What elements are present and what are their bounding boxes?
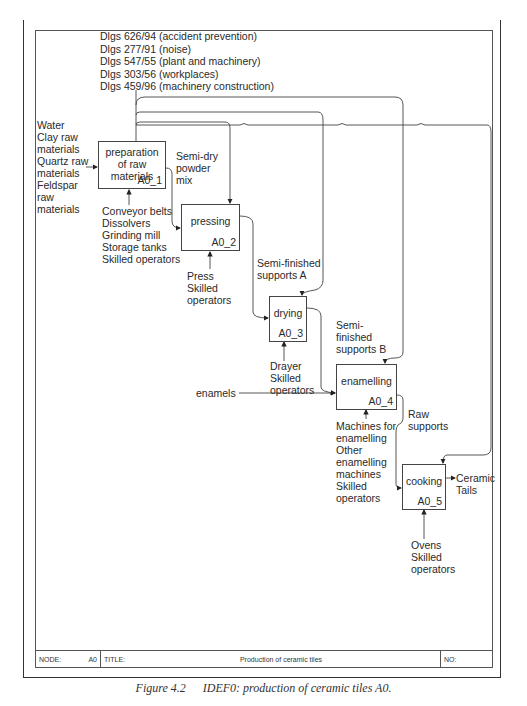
mechanism-a0-3: Drayer Skilled operators: [270, 360, 314, 396]
control-label-2: Dlgs 277/91 (noise): [100, 43, 191, 55]
mechanism-a0-2: Press Skilled operators: [187, 270, 231, 306]
footer-node-cell: NODE: A0: [36, 651, 101, 667]
activity-box-a0-2[interactable]: pressing A0_2: [181, 204, 240, 251]
no-label: NO:: [444, 656, 456, 663]
connector-lines: [0, 0, 527, 706]
input-raw-materials: Water Clay raw materials Quartz raw mate…: [37, 119, 88, 215]
figure-text: IDEF0: production of ceramic tiles A0.: [203, 681, 392, 695]
activity-box-a0-5[interactable]: cooking A0_5: [402, 464, 446, 510]
activity-box-a0-1[interactable]: preparation of raw materials A0_1: [98, 141, 166, 189]
input-enamels: enamels: [196, 387, 236, 399]
activity-code: A0_4: [368, 395, 393, 407]
node-value: A0: [88, 656, 97, 663]
mechanism-a0-1: Conveyor belts Dissolvers Grinding mill …: [102, 205, 180, 265]
activity-code: A0_1: [137, 174, 162, 186]
control-label-3: Dlgs 547/55 (plant and machinery): [100, 55, 261, 67]
activity-name: cooking: [403, 475, 445, 487]
node-label: NODE:: [39, 656, 61, 663]
control-label-5: Dlgs 459/96 (machinery construction): [100, 80, 274, 92]
flow-output-ceramic-tails: Ceramic Tails: [456, 472, 495, 496]
flow-semi-finished-a: Semi-finished supports A: [257, 257, 321, 281]
activity-name: enamelling: [337, 375, 396, 387]
figure-caption: Figure 4.2 IDEF0: production of ceramic …: [0, 681, 527, 696]
title-value: Production of ceramic tiles: [125, 656, 437, 663]
mechanism-a0-5: Ovens Skilled operators: [411, 539, 455, 575]
activity-code: A0_3: [278, 327, 303, 339]
flow-raw-supports: Raw supports: [408, 408, 448, 432]
diagram-footer: NODE: A0 TITLE: Production of ceramic ti…: [35, 650, 493, 668]
title-label: TITLE:: [104, 656, 125, 663]
mechanism-a0-4: Machines for enamelling Other enamelling…: [336, 420, 396, 504]
activity-box-a0-3[interactable]: drying A0_3: [269, 296, 307, 342]
control-label-4: Dlgs 303/56 (workplaces): [100, 68, 218, 80]
activity-code: A0_5: [417, 495, 442, 507]
activity-name: pressing: [182, 215, 239, 227]
footer-title-cell: TITLE: Production of ceramic tiles: [101, 651, 441, 667]
activity-name: drying: [270, 307, 306, 319]
activity-box-a0-4[interactable]: enamelling A0_4: [336, 364, 397, 410]
flow-semi-dry-powder: Semi-dry powder mix: [176, 150, 218, 186]
flow-semi-finished-b: Semi- finished supports B: [336, 319, 386, 355]
footer-no-cell: NO:: [441, 651, 492, 667]
figure-number: Figure 4.2: [136, 681, 186, 695]
activity-code: A0_2: [211, 236, 236, 248]
control-label-1: Dlgs 626/94 (accident prevention): [100, 30, 257, 42]
